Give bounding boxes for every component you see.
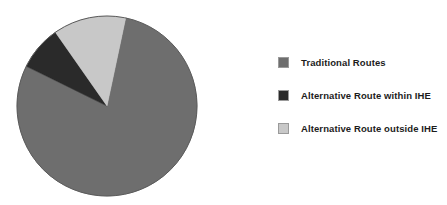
legend-item-traditional-routes[interactable]: Traditional Routes	[278, 56, 446, 68]
legend-item-alternative-outside-ihe[interactable]: Alternative Route outside IHE	[278, 122, 446, 134]
pie-chart-svg	[16, 14, 198, 198]
legend: Traditional Routes Alternative Route wit…	[278, 56, 446, 134]
legend-swatch-alternative-outside-ihe	[278, 123, 289, 134]
legend-swatch-alternative-within-ihe	[278, 90, 289, 101]
pie-slice-group	[17, 16, 197, 196]
pie-chart-plot-area	[16, 14, 198, 198]
legend-label-alternative-outside-ihe: Alternative Route outside IHE	[301, 123, 437, 134]
legend-swatch-traditional-routes	[278, 57, 289, 68]
pie-chart-figure: Traditional Routes Alternative Route wit…	[0, 0, 447, 205]
legend-label-alternative-within-ihe: Alternative Route within IHE	[301, 90, 431, 101]
legend-label-traditional-routes: Traditional Routes	[301, 57, 386, 68]
legend-item-alternative-within-ihe[interactable]: Alternative Route within IHE	[278, 89, 446, 101]
